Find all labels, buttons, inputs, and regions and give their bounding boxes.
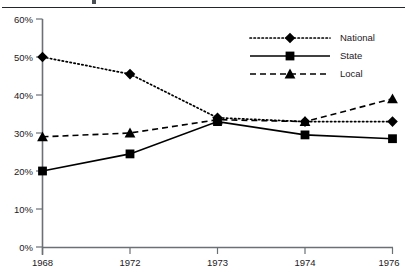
y-tick-label: 50% [14, 52, 34, 63]
legend-label-local: Local [340, 68, 363, 79]
line-chart-plot: 60% 50% 40% 30% 20% 10% 0% 1968 1972 197… [0, 0, 407, 275]
legend-label-state: State [340, 50, 362, 61]
y-tick-label: 40% [14, 90, 34, 101]
series-line [43, 57, 393, 122]
y-tick-label: 0% [19, 242, 33, 253]
x-tick-label: 1976 [378, 257, 399, 268]
y-tick-label: 20% [14, 166, 34, 177]
y-tick-label: 60% [14, 14, 34, 25]
x-axis-ticks [43, 248, 393, 255]
x-tick-label: 1968 [32, 257, 53, 268]
data-point-marker [387, 93, 398, 103]
legend-sample-marker [286, 52, 295, 61]
chart-container: 60% 50% 40% 30% 20% 10% 0% 1968 1972 197… [0, 0, 407, 275]
series-line [43, 122, 393, 171]
series-local [37, 93, 398, 141]
data-point-marker [37, 52, 48, 63]
data-point-marker [126, 150, 135, 159]
x-axis-tick-labels: 1968 1972 1973 1974 1976 [32, 257, 400, 268]
y-tick-label: 30% [14, 128, 34, 139]
data-point-marker [387, 116, 398, 127]
data-point-marker [125, 69, 136, 80]
x-tick-label: 1973 [207, 257, 228, 268]
y-tick-label: 10% [14, 204, 34, 215]
chart-legend: National State Local [250, 32, 375, 79]
data-point-marker [301, 131, 310, 140]
data-point-marker [38, 167, 47, 176]
legend-sample-marker [285, 33, 296, 44]
series-state [38, 117, 397, 175]
data-point-marker [388, 134, 397, 143]
x-tick-label: 1974 [294, 257, 315, 268]
y-axis-tick-labels: 60% 50% 40% 30% 20% 10% 0% [14, 14, 34, 253]
legend-label-national: National [340, 32, 375, 43]
x-tick-label: 1972 [119, 257, 140, 268]
